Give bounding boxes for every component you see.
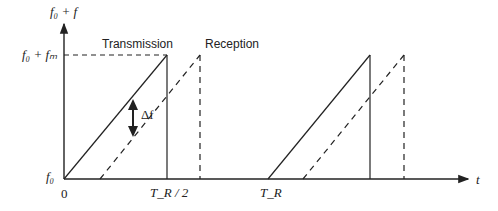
- reception-ramp-2: [303, 55, 404, 179]
- fmcw-diagram: f₀ + f f₀ + fₘ f₀ 0 T_R / 2 T_R t Transm…: [0, 0, 498, 211]
- transmission-ramp-2: [268, 55, 370, 179]
- reception-label: Reception: [205, 37, 259, 51]
- y-axis-label: f₀ + f: [50, 4, 77, 20]
- x-axis-label: t: [476, 172, 480, 188]
- origin-label: 0: [61, 186, 68, 202]
- baseline-label: f₀: [46, 169, 54, 185]
- period-tick-label: T_R: [260, 185, 282, 201]
- diagram-canvas: [0, 0, 498, 211]
- delta-f-arrow-down-icon: [128, 126, 138, 137]
- half-period-tick-label: T_R / 2: [150, 185, 188, 201]
- transmission-label: Transmission: [102, 37, 173, 51]
- delta-f-label: Δf: [141, 107, 154, 123]
- top-level-label: f₀ + fₘ: [22, 47, 57, 63]
